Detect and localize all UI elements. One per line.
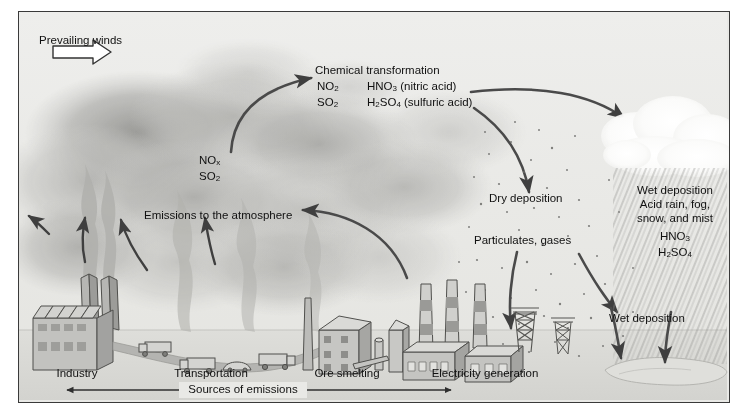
prevailing-winds-label: Prevailing winds [39,34,122,47]
figure-root: Prevailing winds NOx SO2 Emissions to th… [0,0,746,413]
wet-deposition-acid-h2so4: H2SO4 [623,246,727,261]
transformation-product-nitric-acid: HNO3 (nitric acid) [367,80,456,95]
dry-deposition-label: Dry deposition [489,192,563,205]
wet-deposition-label: Wet deposition [609,312,685,325]
transformation-reactant-no2: NO2 [317,80,339,95]
chemical-transformation-title: Chemical transformation [315,64,440,77]
particulates-gases-label: Particulates, gases [474,234,571,247]
wet-deposition-box-line1: Wet deposition [623,184,727,197]
source-label-ore-smelting: Ore smelting [293,367,401,380]
source-label-electricity-generation: Electricity generation [405,367,565,380]
source-label-industry: Industry [27,367,127,380]
wet-deposition-box-line2: Acid rain, fog, [623,198,727,211]
plume-species-so2: SO2 [199,170,220,185]
emissions-to-atmosphere-label: Emissions to the atmosphere [144,209,292,222]
wet-deposition-box-line3: snow, and mist [623,212,727,225]
wet-deposition-acid-hno3: HNO3 [623,230,727,245]
source-label-transportation: Transportation [147,367,275,380]
transformation-product-sulfuric-acid: H2SO4 (sulfuric acid) [367,96,472,111]
sources-of-emissions-label: Sources of emissions [179,383,307,396]
diagram-frame: Prevailing winds NOx SO2 Emissions to th… [18,11,730,403]
transformation-reactant-so2: SO2 [317,96,338,111]
plume-species-nox: NOx [199,154,220,169]
